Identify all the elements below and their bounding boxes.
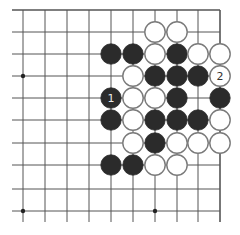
black-stone	[101, 155, 121, 175]
white-stone	[167, 22, 187, 42]
black-stone	[188, 66, 208, 86]
black-stone	[123, 44, 143, 64]
white-stone	[210, 133, 230, 153]
white-stone	[123, 66, 143, 86]
star-point	[21, 74, 25, 78]
white-stone	[145, 44, 165, 64]
white-stone	[123, 110, 143, 130]
move-number-label: 2	[217, 70, 224, 83]
white-stone	[145, 155, 165, 175]
white-stone	[123, 133, 143, 153]
white-stone	[145, 22, 165, 42]
black-stone: 1	[101, 88, 121, 108]
white-stone	[167, 133, 187, 153]
white-stone	[167, 155, 187, 175]
star-point	[153, 209, 157, 213]
black-stone	[167, 44, 187, 64]
black-stone	[123, 155, 143, 175]
white-stone	[188, 44, 208, 64]
black-stone	[210, 88, 230, 108]
black-stone	[145, 110, 165, 130]
black-stone	[101, 44, 121, 64]
move-number-label: 1	[108, 92, 115, 105]
black-stone	[188, 110, 208, 130]
go-board: 21	[0, 0, 240, 235]
black-stone	[145, 66, 165, 86]
white-stone	[188, 133, 208, 153]
black-stone	[167, 88, 187, 108]
white-stone: 2	[210, 66, 230, 86]
black-stone	[101, 110, 121, 130]
black-stone	[145, 133, 165, 153]
stones: 21	[101, 22, 230, 175]
white-stone	[123, 88, 143, 108]
white-stone	[210, 44, 230, 64]
black-stone	[167, 66, 187, 86]
white-stone	[145, 88, 165, 108]
black-stone	[167, 110, 187, 130]
star-point	[21, 209, 25, 213]
white-stone	[210, 110, 230, 130]
